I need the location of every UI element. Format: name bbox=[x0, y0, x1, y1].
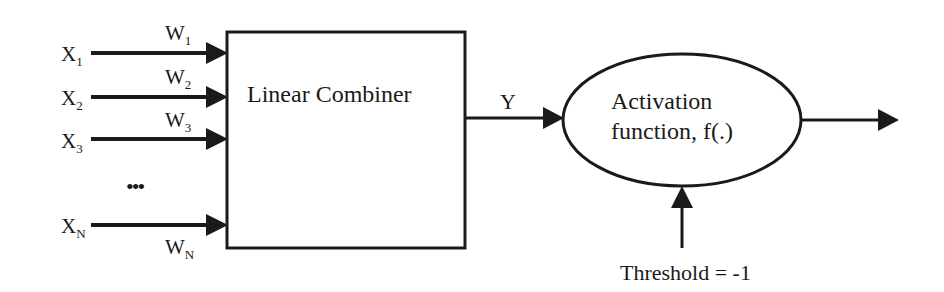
arrowhead-output bbox=[878, 109, 899, 131]
input-label-x2: X2 bbox=[61, 88, 83, 112]
linear-combiner-box bbox=[227, 32, 465, 248]
threshold-label: Threshold = -1 bbox=[620, 262, 751, 284]
weight-label-w1: W1 bbox=[165, 23, 191, 47]
arrowhead-n bbox=[206, 214, 228, 236]
arrowhead-y bbox=[543, 107, 564, 129]
ellipsis-dots: ••• bbox=[126, 176, 143, 198]
arrowhead-3 bbox=[206, 128, 228, 150]
weight-label-w2: W2 bbox=[165, 67, 191, 91]
input-label-x3: X3 bbox=[61, 131, 83, 155]
arrowhead-1 bbox=[206, 42, 228, 64]
weight-label-w3: W3 bbox=[165, 110, 191, 134]
diagram-canvas bbox=[0, 0, 944, 292]
input-label-x1: X1 bbox=[61, 44, 83, 68]
combiner-label: Linear Combiner bbox=[247, 82, 412, 106]
input-label-xn: XN bbox=[61, 216, 86, 240]
activation-label-line1: Activation bbox=[611, 86, 712, 116]
activation-label-line2: function, f(.) bbox=[611, 116, 733, 146]
output-signal-y: Y bbox=[500, 91, 516, 113]
arrowhead-threshold bbox=[671, 186, 693, 208]
arrowhead-2 bbox=[206, 86, 228, 108]
weight-label-wn: WN bbox=[165, 237, 194, 261]
